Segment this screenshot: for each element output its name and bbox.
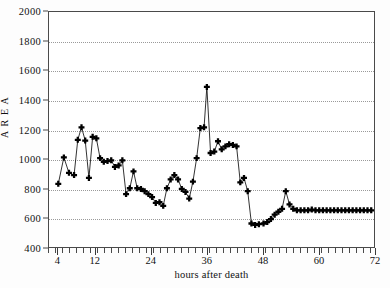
x-minor-tick [188, 248, 189, 253]
x-minor-tick [314, 248, 315, 253]
x-minor-tick [195, 248, 196, 253]
x-minor-tick [174, 248, 175, 253]
x-minor-tick [349, 248, 350, 253]
x-minor-tick [244, 248, 245, 253]
data-point [127, 185, 133, 191]
x-minor-tick [125, 248, 126, 253]
x-minor-tick [321, 248, 322, 253]
data-point [75, 137, 81, 143]
x-major-tick [375, 248, 376, 255]
x-minor-tick [153, 248, 154, 253]
data-point [123, 191, 129, 197]
data-point [71, 172, 77, 178]
data-series [49, 12, 374, 247]
x-minor-tick [139, 248, 140, 253]
data-point [119, 157, 125, 163]
x-minor-tick [83, 248, 84, 253]
data-point [368, 207, 374, 213]
y-tick-label: 600 [24, 213, 41, 224]
x-minor-tick [202, 248, 203, 253]
x-minor-tick [307, 248, 308, 253]
y-tick-label: 400 [24, 243, 41, 254]
x-minor-tick [216, 248, 217, 253]
x-minor-tick [272, 248, 273, 253]
y-tick-label: 1200 [19, 124, 41, 135]
data-point [194, 155, 200, 161]
x-minor-tick [69, 248, 70, 253]
x-minor-tick [279, 248, 280, 253]
data-point [204, 84, 210, 90]
x-major-tick [207, 248, 208, 255]
data-point [245, 188, 251, 194]
data-point [61, 154, 67, 160]
x-minor-tick [356, 248, 357, 253]
data-point [186, 196, 192, 202]
y-tick-label: 800 [24, 183, 41, 194]
x-tick-label: 24 [146, 255, 157, 266]
x-minor-tick [209, 248, 210, 253]
x-minor-tick [62, 248, 63, 253]
x-minor-tick [167, 248, 168, 253]
y-tick-label: 1600 [19, 65, 41, 76]
x-axis-ticks [48, 248, 375, 254]
x-minor-tick [160, 248, 161, 253]
x-minor-tick [90, 248, 91, 253]
x-minor-tick [258, 248, 259, 253]
x-minor-tick [48, 248, 49, 253]
data-point [55, 181, 61, 187]
x-minor-tick [230, 248, 231, 253]
x-minor-tick [286, 248, 287, 253]
x-tick-label: 60 [314, 255, 325, 266]
data-point [108, 157, 114, 163]
x-minor-tick [328, 248, 329, 253]
data-point [66, 170, 72, 176]
y-tick-label: 1000 [19, 154, 41, 165]
x-minor-tick [300, 248, 301, 253]
x-tick-label: 72 [370, 255, 381, 266]
x-tick-label: 48 [258, 255, 269, 266]
data-point [164, 185, 170, 191]
x-minor-tick [111, 248, 112, 253]
x-minor-tick [181, 248, 182, 253]
x-minor-tick [146, 248, 147, 253]
data-point [79, 124, 85, 130]
plot-area [48, 11, 375, 248]
x-minor-tick [118, 248, 119, 253]
x-tick-label: 12 [89, 255, 100, 266]
y-tick-label: 1800 [19, 35, 41, 46]
x-minor-tick [265, 248, 266, 253]
x-major-tick [95, 248, 96, 255]
data-point [215, 138, 221, 144]
x-minor-tick [251, 248, 252, 253]
x-major-tick [57, 248, 58, 255]
y-tick-label: 2000 [19, 6, 41, 17]
x-minor-tick [335, 248, 336, 253]
series-markers [55, 84, 374, 228]
x-minor-tick [237, 248, 238, 253]
chart-figure: A R E A 40060080010001200140016001800200… [0, 0, 390, 288]
data-point [82, 138, 88, 144]
x-major-tick [151, 248, 152, 255]
x-minor-tick [97, 248, 98, 253]
data-point [283, 188, 289, 194]
x-minor-tick [363, 248, 364, 253]
x-minor-tick [342, 248, 343, 253]
x-major-tick [319, 248, 320, 255]
y-tick-label: 1400 [19, 94, 41, 105]
x-minor-tick [293, 248, 294, 253]
data-point [190, 179, 196, 185]
x-tick-label: 36 [202, 255, 213, 266]
x-minor-tick [370, 248, 371, 253]
x-minor-tick [132, 248, 133, 253]
x-tick-label: 4 [55, 255, 60, 266]
x-minor-tick [223, 248, 224, 253]
x-axis-title: hours after death [48, 269, 375, 280]
data-point [86, 175, 92, 181]
series-line [58, 87, 371, 225]
data-point [201, 124, 207, 130]
y-axis: 400600800100012001400160018002000 [0, 0, 48, 288]
x-minor-tick [55, 248, 56, 253]
x-minor-tick [76, 248, 77, 253]
data-point [131, 168, 137, 174]
x-major-tick [263, 248, 264, 255]
